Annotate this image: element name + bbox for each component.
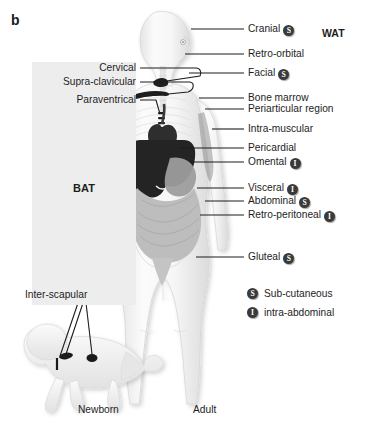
legend: S Sub-cutaneous I intra-abdominal (247, 288, 334, 326)
bat-region-label: BAT (32, 182, 136, 194)
caption-adult: Adult (193, 404, 216, 415)
legend-item-intraabdominal: I intra-abdominal (247, 307, 334, 318)
label-intra-muscular-text: Intra-muscular (248, 123, 313, 134)
label-supra-clavicular-text: Supra-clavicular (63, 76, 136, 87)
badge-subcutaneous-icon: S (247, 288, 258, 299)
figure-panel-b: b BAT WAT Cervical Supra-clavicular Para… (0, 0, 372, 439)
label-paraventrical: Paraventrical (77, 95, 136, 105)
label-facial-text: Facial (248, 67, 275, 78)
label-gluteal-text: Gluteal (248, 251, 280, 262)
label-omental-text: Omental (248, 156, 287, 167)
label-paraventrical-text: Paraventrical (77, 94, 136, 105)
label-abdominal: AbdominalS (248, 196, 310, 208)
label-cranial: CranialS (248, 24, 294, 36)
label-facial: FacialS (248, 68, 289, 80)
label-periarticular-region: Periarticular region (248, 104, 334, 114)
label-bone-marrow-text: Bone marrow (248, 92, 309, 103)
label-visceral-text: Visceral (248, 182, 284, 193)
label-periarticular-region-text: Periarticular region (248, 103, 334, 114)
label-cervical-text: Cervical (99, 62, 136, 73)
badge-subcutaneous: S (283, 25, 294, 36)
label-supra-clavicular: Supra-clavicular (63, 77, 136, 87)
label-intra-muscular: Intra-muscular (248, 124, 313, 134)
label-cervical: Cervical (99, 63, 136, 73)
legend-item-subcutaneous-text: Sub-cutaneous (264, 288, 333, 299)
badge-intraabdominal: I (290, 158, 301, 169)
panel-letter: b (11, 12, 20, 28)
badge-subcutaneous: S (278, 69, 289, 80)
label-retro-peritoneal-text: Retro-peritoneal (248, 209, 321, 220)
label-omental: OmentalI (248, 157, 301, 169)
wat-region-label: WAT (322, 27, 345, 39)
label-gluteal: GlutealS (248, 252, 294, 264)
badge-subcutaneous: S (299, 197, 310, 208)
badge-intraabdominal: I (287, 184, 298, 195)
caption-newborn: Newborn (78, 404, 119, 415)
label-inter-scapular-text: Inter-scapular (25, 289, 87, 300)
legend-item-subcutaneous: S Sub-cutaneous (247, 288, 334, 299)
badge-subcutaneous: S (283, 253, 294, 264)
label-inter-scapular: Inter-scapular (25, 289, 87, 300)
label-bone-marrow: Bone marrow (248, 93, 309, 103)
label-abdominal-text: Abdominal (248, 195, 296, 206)
label-pericardial-text: Pericardial (248, 142, 296, 153)
legend-item-intraabdominal-text: intra-abdominal (264, 307, 334, 318)
label-pericardial: Pericardial (248, 143, 296, 153)
label-retro-orbital-text: Retro-orbital (248, 48, 304, 59)
badge-intraabdominal: I (324, 211, 335, 222)
label-cranial-text: Cranial (248, 23, 280, 34)
label-retro-orbital: Retro-orbital (248, 49, 304, 59)
label-visceral: VisceralI (248, 183, 298, 195)
badge-intraabdominal-icon: I (247, 307, 258, 318)
label-retro-peritoneal: Retro-peritonealI (248, 210, 335, 222)
